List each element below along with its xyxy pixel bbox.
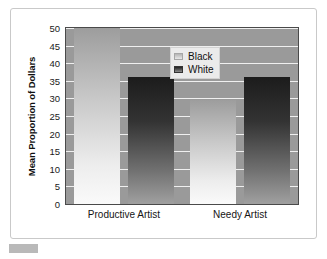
y-tick-label: 0	[55, 199, 60, 210]
y-axis-tick-labels: 05101520253035404550	[38, 27, 63, 205]
y-tick-label: 10	[49, 163, 60, 174]
legend-label-black: Black	[188, 51, 212, 62]
y-tick-label: 20	[49, 128, 60, 139]
legend-item-black: Black	[174, 50, 214, 63]
legend-swatch-black-icon	[174, 53, 183, 60]
chart-legend: Black White	[170, 47, 220, 79]
bar-white-productive-artist	[128, 77, 174, 204]
y-tick-label: 35	[49, 75, 60, 86]
x-axis-category-labels: Productive ArtistNeedy Artist	[65, 209, 299, 227]
axis-baseline	[66, 204, 298, 205]
y-tick-label: 50	[49, 23, 60, 34]
y-axis-title-text: Mean Proportion of Dollars	[27, 56, 38, 175]
bar-white-needy-artist	[244, 77, 290, 204]
legend-item-white: White	[174, 63, 214, 76]
x-axis-label: Productive Artist	[88, 209, 160, 220]
plot-area: Black White	[65, 27, 299, 205]
x-axis-label: Needy Artist	[213, 209, 267, 220]
y-tick-label: 30	[49, 93, 60, 104]
y-tick-label: 5	[55, 181, 60, 192]
y-tick-label: 45	[49, 40, 60, 51]
bar-black-productive-artist	[74, 28, 120, 204]
legend-label-white: White	[188, 64, 214, 75]
chart-figure-frame: Mean Proportion of Dollars 0510152025303…	[10, 8, 317, 239]
y-tick-label: 15	[49, 146, 60, 157]
y-tick-label: 40	[49, 58, 60, 69]
y-tick-label: 25	[49, 111, 60, 122]
bar-black-needy-artist	[190, 100, 236, 204]
corner-artifact-block	[9, 244, 38, 253]
legend-swatch-white-icon	[174, 66, 183, 73]
